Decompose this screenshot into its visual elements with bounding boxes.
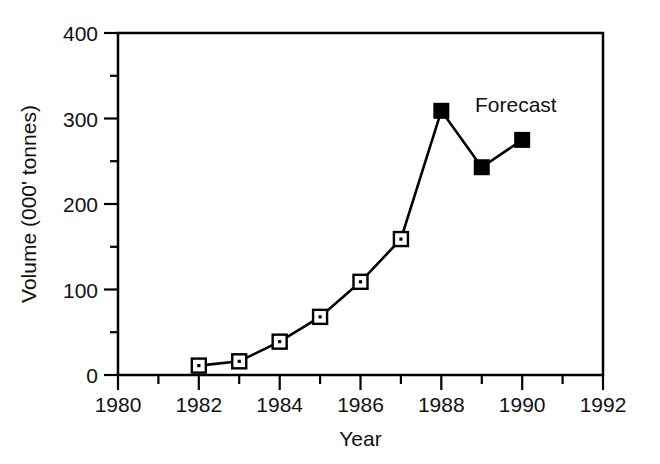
data-line [199, 111, 522, 366]
y-tick-label-0: 0 [86, 364, 98, 387]
x-tick-label-1980: 1980 [95, 393, 142, 416]
plot-border [118, 33, 603, 375]
x-tick-label-1984: 1984 [256, 393, 303, 416]
marker-center-dot [278, 340, 281, 343]
filled-square-marker [475, 160, 489, 174]
data-point-marker [475, 160, 489, 174]
data-point-marker [515, 133, 529, 147]
marker-center-dot [197, 364, 200, 367]
data-point-marker [273, 335, 287, 349]
y-axis-ticks [104, 33, 118, 375]
y-tick-label-300: 300 [63, 108, 98, 131]
y-tick-label-400: 400 [63, 22, 98, 45]
marker-center-dot [399, 237, 402, 240]
data-point-marker [232, 354, 246, 368]
line-chart: 400 300 200 100 0 Volume (000' tonnes) [0, 0, 660, 464]
filled-square-marker [434, 104, 448, 118]
data-point-marker [434, 104, 448, 118]
data-point-marker [354, 275, 368, 289]
marker-center-dot [238, 360, 241, 363]
x-tick-label-1982: 1982 [175, 393, 222, 416]
x-tick-label-1992: 1992 [580, 393, 627, 416]
chart-canvas: 400 300 200 100 0 Volume (000' tonnes) [0, 0, 660, 464]
data-point-marker [313, 310, 327, 324]
y-axis-title: Volume (000' tonnes) [17, 105, 40, 303]
data-point-marker [192, 359, 206, 373]
plot-frame [118, 33, 603, 375]
data-point-marker [394, 232, 408, 246]
x-axis-ticks [118, 375, 603, 390]
y-tick-label-100: 100 [63, 279, 98, 302]
marker-center-dot [318, 315, 321, 318]
x-tick-label-1990: 1990 [499, 393, 546, 416]
filled-square-marker [515, 133, 529, 147]
x-axis-tick-labels: 1980 1982 1984 1986 1988 1990 1992 [95, 393, 627, 416]
forecast-annotation: Forecast [475, 93, 557, 116]
data-series-layer [192, 104, 529, 373]
y-axis-tick-labels: 400 300 200 100 0 [63, 22, 98, 387]
y-tick-label-200: 200 [63, 193, 98, 216]
x-tick-label-1986: 1986 [337, 393, 384, 416]
x-tick-label-1988: 1988 [418, 393, 465, 416]
marker-center-dot [359, 280, 362, 283]
x-axis-title: Year [339, 427, 381, 450]
